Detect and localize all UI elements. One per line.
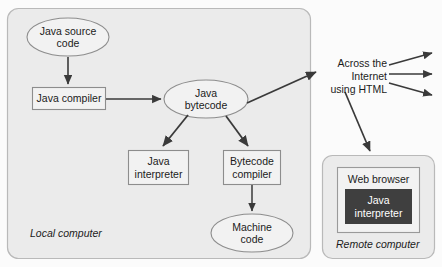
bytecode-compiler-node	[224, 151, 281, 185]
network-label: Across the Internet using HTML	[315, 57, 387, 96]
remote-java-interpreter-label: Java interpreter	[345, 189, 412, 224]
machine-code-node	[211, 214, 293, 252]
java-source-code-node	[27, 18, 109, 56]
arrow-internet-up	[389, 53, 432, 65]
local-computer-caption: Local computer	[30, 227, 102, 239]
java-compiler-node	[33, 88, 106, 110]
web-browser-title: Web browser	[338, 173, 419, 185]
java-bytecode-node	[164, 80, 248, 118]
arrow-internet-to-remote-computer	[345, 92, 370, 151]
arrow-internet-down	[389, 83, 432, 95]
diagram-canvas: Java source code Java compiler Java byte…	[0, 0, 442, 267]
remote-computer-caption: Remote computer	[336, 238, 419, 250]
java-interpreter-node	[129, 151, 189, 185]
